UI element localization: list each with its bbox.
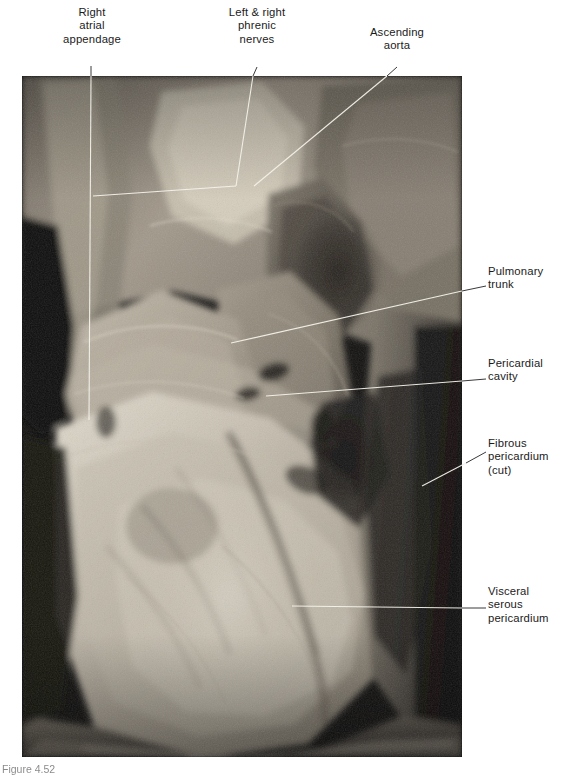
leader-pulmonary-trunk-stub [462, 286, 486, 291]
label-ascending-aorta: Ascending aorta [348, 26, 446, 53]
label-right-atrial-appendage: Right atrial appendage [46, 6, 138, 46]
label-pulmonary-trunk: Pulmonary trunk [488, 265, 562, 292]
label-pericardial-cavity: Pericardial cavity [488, 357, 562, 384]
leader-phrenic-nerves-stub [253, 67, 257, 76]
anatomical-figure: Right atrial appendage Left & right phre… [0, 0, 566, 775]
figure-caption: Figure 4.52 [2, 763, 332, 775]
leader-ascending-aorta-stub [387, 67, 397, 76]
label-fibrous-pericardium: Fibrous pericardium (cut) [488, 437, 564, 477]
label-phrenic-nerves: Left & right phrenic nerves [198, 6, 316, 46]
leader-pericardial-cavity-stub [462, 379, 486, 381]
label-visceral-serous-pericardium: Visceral serous pericardium [488, 585, 566, 625]
leader-fibrous-pericardium-stub [466, 452, 486, 463]
cadaver-photograph [22, 76, 462, 757]
photograph-canvas [22, 76, 462, 757]
